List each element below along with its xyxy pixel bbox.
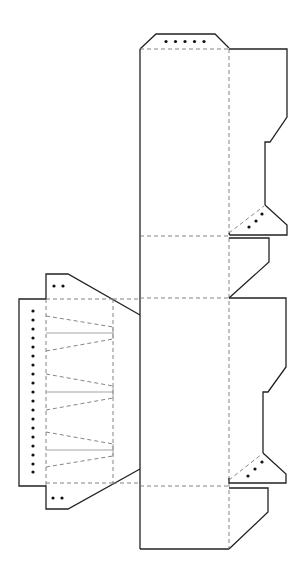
- right-flap-1: [229, 49, 287, 205]
- right-flap-3: [229, 298, 286, 453]
- right-flap-4: [229, 488, 268, 549]
- left-accordion-strip: [31, 299, 113, 486]
- left-connector: [19, 274, 140, 509]
- triangular-glue-tab-2: [229, 453, 286, 483]
- left-small-tab-upper: [52, 284, 64, 287]
- glue-dots-top: [164, 40, 205, 43]
- triangular-glue-tab-1: [229, 205, 287, 235]
- glue-dots-left-strip: [31, 309, 34, 473]
- right-flap-2: [229, 238, 269, 298]
- top-glue-tab: [140, 34, 229, 49]
- left-small-tab-lower: [51, 496, 63, 499]
- box-net-diagram: [0, 0, 305, 576]
- main-body: [140, 49, 229, 549]
